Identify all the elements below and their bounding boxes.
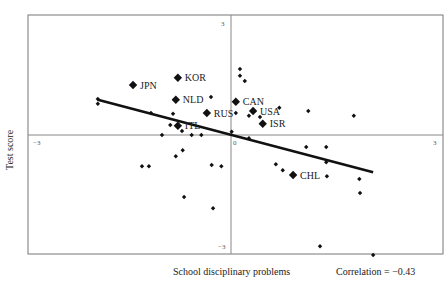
- data-point: [274, 162, 278, 166]
- country-marker-can: [232, 98, 240, 106]
- origin-tick: 0: [233, 139, 237, 147]
- data-point: [304, 145, 308, 149]
- country-marker-kor: [174, 74, 182, 82]
- data-point: [324, 145, 328, 149]
- country-marker-nld: [172, 96, 180, 104]
- data-point: [371, 253, 375, 257]
- data-point: [352, 114, 356, 118]
- data-point: [181, 148, 185, 152]
- y-axis-title: Test score: [4, 129, 15, 170]
- data-point: [140, 164, 144, 168]
- data-point: [219, 164, 223, 168]
- country-marker-rus: [203, 109, 211, 117]
- data-point: [247, 114, 251, 118]
- y-tick-min: −3: [218, 243, 226, 251]
- country-marker-jpn: [129, 81, 137, 89]
- data-point: [234, 111, 238, 115]
- country-label-jpn: JPN: [140, 80, 157, 91]
- data-point: [199, 133, 203, 137]
- data-point: [174, 154, 178, 158]
- data-point: [306, 109, 310, 113]
- data-point: [168, 123, 172, 127]
- data-point: [357, 177, 361, 181]
- data-point: [211, 206, 215, 210]
- data-point: [209, 95, 213, 99]
- data-point: [281, 168, 285, 172]
- data-point: [160, 133, 164, 137]
- y-tick-max: 3: [221, 20, 225, 28]
- country-label-isr: ISR: [270, 118, 286, 129]
- labeled-country-points: JPNKORNLDITLRUSCANUSAISRCHL: [129, 72, 320, 180]
- data-point: [96, 102, 100, 106]
- x-axis-title: School disciplinary problems: [173, 266, 290, 277]
- correlation-annotation: Correlation = −0.43: [336, 266, 415, 277]
- regression-line: [98, 100, 373, 172]
- x-tick-max: 3: [433, 139, 437, 147]
- data-point: [189, 133, 193, 137]
- data-point: [171, 112, 175, 116]
- data-point: [318, 244, 322, 248]
- data-point: [238, 67, 242, 71]
- country-label-kor: KOR: [185, 72, 206, 83]
- data-point: [180, 129, 184, 133]
- scatter-chart: −3 3 3 −3 0 JPNKORNLDITLRUSCANUSAISRCHL …: [0, 0, 448, 290]
- data-point: [358, 191, 362, 195]
- country-label-chl: CHL: [300, 170, 320, 181]
- data-point: [147, 164, 151, 168]
- country-label-rus: RUS: [214, 108, 233, 119]
- data-point: [243, 79, 247, 83]
- country-marker-isr: [259, 120, 267, 128]
- country-marker-chl: [289, 171, 297, 179]
- data-point: [325, 174, 329, 178]
- country-label-nld: NLD: [183, 94, 204, 105]
- data-point: [182, 195, 186, 199]
- country-label-usa: USA: [260, 106, 281, 117]
- x-tick-min: −3: [33, 139, 41, 147]
- data-point: [238, 74, 242, 78]
- data-point: [209, 163, 213, 167]
- country-marker-usa: [249, 107, 257, 115]
- country-label-itl: ITL: [185, 120, 201, 131]
